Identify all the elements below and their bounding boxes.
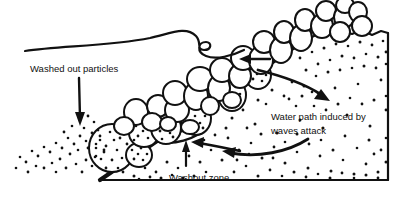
diagram-figure: Washed out particles Water path induced … bbox=[0, 0, 412, 197]
armour-stone-23 bbox=[352, 16, 372, 36]
wave-profile-curve bbox=[25, 31, 244, 58]
armour-stone-26 bbox=[114, 117, 134, 135]
armour-stone-28 bbox=[201, 97, 219, 115]
washed-out-particles-arrow-head bbox=[75, 112, 85, 126]
label-water-path-line-2: waves attack bbox=[270, 125, 326, 136]
armour-stone-19 bbox=[316, 1, 336, 21]
armour-stone-24 bbox=[330, 22, 350, 42]
armour-stone-27 bbox=[181, 120, 199, 134]
washout-zone-leader-head bbox=[191, 137, 204, 148]
breakwater-washout-diagram: Washed out particles Water path induced … bbox=[0, 0, 412, 197]
label-washed-out-particles: Washed out particles bbox=[30, 63, 119, 74]
armour-stone-25 bbox=[160, 117, 176, 131]
armour-stone-layer bbox=[89, 0, 372, 172]
label-washout-zone: Washout zone bbox=[169, 172, 229, 183]
water-surface bbox=[25, 31, 244, 58]
armour-stone-3 bbox=[142, 113, 162, 131]
armour-stone-29 bbox=[223, 92, 241, 108]
label-water-path-line-1: Water path induced by bbox=[271, 111, 366, 122]
